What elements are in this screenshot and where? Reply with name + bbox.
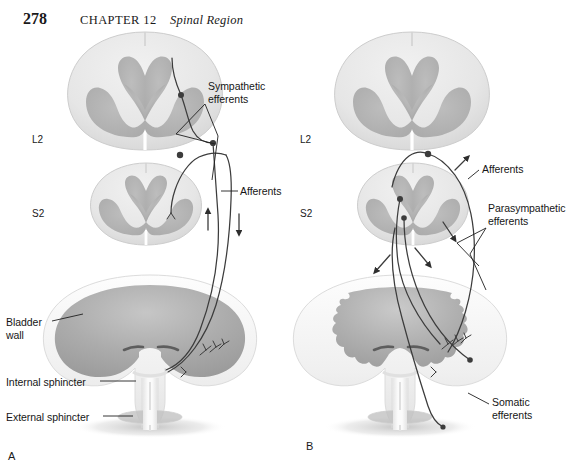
cord-synapse-l2 [178,92,184,98]
panel-b-artwork [293,32,506,438]
callout-afferents-b: Afferents [482,163,523,176]
callout-bladder-wall: Bladder wall [6,316,42,341]
cord-synapse-s2-b [397,196,403,202]
dorsal-root-ganglion-b [425,151,431,157]
callout-sympathetic-efferents: Sympathetic efferents [208,80,265,105]
cord-section-l2-b [335,32,490,150]
parasympathetic-arrow-b2 [415,248,430,266]
panel-letter-b: B [306,440,313,452]
callout-internal-sphincter: Internal sphincter [6,376,86,389]
callout-external-sphincter: External sphincter [6,411,89,424]
cord-section-s2-a [90,163,201,245]
cord-section-l2-a [68,32,223,150]
callout-somatic-efferents: Somatic efferents [492,396,532,421]
afferent-direction-arrow-b [455,157,468,170]
bladder-innervation-figure [0,0,573,473]
panel-letter-a: A [8,450,15,462]
cord-section-s2-b [357,163,468,245]
cord-level-label-s2-b: S2 [300,208,312,219]
cord-level-label-s2-a: S2 [32,208,44,219]
callout-afferents-a: Afferents [240,185,281,198]
cord-level-label-l2-b: L2 [300,134,311,145]
bladder-a [43,275,256,432]
cord-synapse-s2-b2 [401,215,407,221]
parasympathetic-arrow-b3 [375,255,390,272]
pelvic-ganglion-b [467,357,473,363]
figure-page: 278 CHAPTER 12 Spinal Region [0,0,573,473]
bladder-b [293,275,506,432]
somatic-terminal-b [440,424,445,429]
dorsal-root-ganglion-a [177,152,183,158]
cord-level-label-l2-a: L2 [32,134,43,145]
callout-parasympathetic-efferents: Parasympathetic efferents [488,202,565,227]
